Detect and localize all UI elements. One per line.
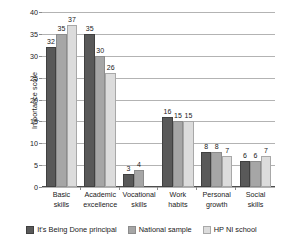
x-category-label: Basicskills xyxy=(42,190,81,209)
bar-slot: 35 xyxy=(56,12,67,187)
bar-value-label: 16 xyxy=(163,108,171,116)
bar[interactable] xyxy=(250,161,261,187)
bar-group-bars: 34 xyxy=(120,12,159,187)
bar-groups: 32353735302634161515887667 xyxy=(42,12,275,187)
bar-group: 667 xyxy=(236,12,275,187)
bar-group-bars: 323537 xyxy=(42,12,81,187)
y-tick-label: 10 xyxy=(30,139,38,148)
y-tick-label: 15 xyxy=(30,117,38,126)
bar-slot: 32 xyxy=(46,12,57,187)
bar[interactable] xyxy=(105,73,116,187)
y-tick-mark xyxy=(39,187,42,188)
bar[interactable] xyxy=(183,121,194,187)
legend-swatch-icon xyxy=(26,226,34,234)
bar-slot: 15 xyxy=(183,12,194,187)
bar-value-label: 37 xyxy=(68,16,76,24)
bar[interactable] xyxy=(46,47,57,187)
legend-label: It's Being Done principal xyxy=(37,225,116,234)
bar[interactable] xyxy=(84,34,95,187)
gridline xyxy=(42,187,275,188)
bar-slot: 3 xyxy=(123,12,134,187)
bar-slot: 7 xyxy=(222,12,233,187)
y-tick-label: 5 xyxy=(34,161,38,170)
bar-slot: 8 xyxy=(201,12,212,187)
bar-group: 323537 xyxy=(42,12,81,187)
bar-value-label: 7 xyxy=(225,147,229,155)
bar-value-label: 35 xyxy=(58,25,66,33)
bar-value-label: 4 xyxy=(137,161,141,169)
bar[interactable] xyxy=(201,152,212,187)
bar-group: 887 xyxy=(197,12,236,187)
legend-item[interactable]: National sample xyxy=(128,225,192,234)
y-tick-label: 40 xyxy=(30,8,38,17)
legend-label: National sample xyxy=(139,225,192,234)
x-category-label: Vocationalskills xyxy=(120,190,159,209)
legend-swatch-icon xyxy=(128,226,136,234)
bar[interactable] xyxy=(240,161,251,187)
bar-group: 161515 xyxy=(158,12,197,187)
bar-value-label: 6 xyxy=(243,152,247,160)
bar[interactable] xyxy=(211,152,222,187)
y-tick-label: 20 xyxy=(30,95,38,104)
bar-group-bars: 161515 xyxy=(158,12,197,187)
bar-value-label: 30 xyxy=(96,47,104,55)
bar-group: 353026 xyxy=(81,12,120,187)
legend-swatch-icon xyxy=(203,226,211,234)
y-tick-label: 35 xyxy=(30,29,38,38)
bar-value-label: 15 xyxy=(184,112,192,120)
bar-value-label: 32 xyxy=(47,38,55,46)
bar-value-label: 35 xyxy=(86,25,94,33)
y-tick-label: 30 xyxy=(30,51,38,60)
bar[interactable] xyxy=(261,156,272,187)
bar-value-label: 7 xyxy=(264,147,268,155)
bar-slot: 16 xyxy=(162,12,173,187)
bar-value-label: 15 xyxy=(174,112,182,120)
bar[interactable] xyxy=(123,174,134,187)
bar-slot: 30 xyxy=(95,12,106,187)
bar-slot: 37 xyxy=(67,12,78,187)
bar[interactable] xyxy=(173,121,184,187)
legend-item[interactable]: It's Being Done principal xyxy=(26,225,116,234)
x-axis-labels: BasicskillsAcademicexcellenceVocationals… xyxy=(42,190,275,209)
bar-slot: 35 xyxy=(84,12,95,187)
bar-value-label: 3 xyxy=(127,165,131,173)
legend-label: HP NI school xyxy=(214,225,257,234)
bar[interactable] xyxy=(56,34,67,187)
bar[interactable] xyxy=(67,25,78,187)
y-tick-label: 0 xyxy=(34,183,38,192)
bar[interactable] xyxy=(95,56,106,187)
bar-chart: Importance score 0510152025303540 323537… xyxy=(0,0,283,249)
y-tick-label: 25 xyxy=(30,73,38,82)
bar-value-label: 8 xyxy=(204,143,208,151)
bar-slot xyxy=(144,12,155,187)
bar-group: 34 xyxy=(120,12,159,187)
bar[interactable] xyxy=(162,117,173,187)
plot-area: 0510152025303540 32353735302634161515887… xyxy=(42,12,275,187)
bar-slot: 4 xyxy=(134,12,145,187)
bar-value-label: 6 xyxy=(254,152,258,160)
bar-slot: 6 xyxy=(250,12,261,187)
bar[interactable] xyxy=(134,170,145,188)
x-category-label: Personalgrowth xyxy=(197,190,236,209)
bar-group-bars: 667 xyxy=(236,12,275,187)
bar-value-label: 26 xyxy=(107,64,115,72)
x-category-label: Workhabits xyxy=(158,190,197,209)
legend-item[interactable]: HP NI school xyxy=(203,225,257,234)
bar-group-bars: 887 xyxy=(197,12,236,187)
bar-slot: 15 xyxy=(173,12,184,187)
bar-slot: 6 xyxy=(240,12,251,187)
bar-slot: 8 xyxy=(211,12,222,187)
bar-value-label: 8 xyxy=(215,143,219,151)
bar-slot: 7 xyxy=(261,12,272,187)
x-category-label: Socialskills xyxy=(236,190,275,209)
x-category-label: Academicexcellence xyxy=(81,190,120,209)
chart-legend: It's Being Done principalNational sample… xyxy=(0,225,283,234)
bar[interactable] xyxy=(222,156,233,187)
bar-slot: 26 xyxy=(105,12,116,187)
bar-group-bars: 353026 xyxy=(81,12,120,187)
